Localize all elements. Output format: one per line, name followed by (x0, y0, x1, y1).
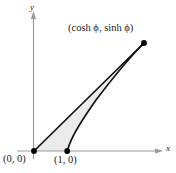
hyperbolic-sector-figure: (cosh ϕ, sinh ϕ) (0, 0) (1, 0) x y (0, 0, 176, 173)
label-point-cosh-sinh: (cosh ϕ, sinh ϕ) (68, 23, 133, 34)
x-axis-arrowhead (155, 148, 163, 153)
x-axis-label: x (166, 144, 170, 153)
ray-from-origin (34, 43, 144, 151)
point-cosh-sinh-marker (141, 40, 147, 46)
point-origin-marker (31, 148, 37, 154)
label-point-unit: (1, 0) (54, 155, 77, 166)
label-point-origin: (0, 0) (3, 154, 26, 165)
y-axis-label: y (30, 3, 34, 12)
unit-hyperbola-curve (67, 43, 144, 151)
y-axis-arrowhead (31, 11, 36, 19)
